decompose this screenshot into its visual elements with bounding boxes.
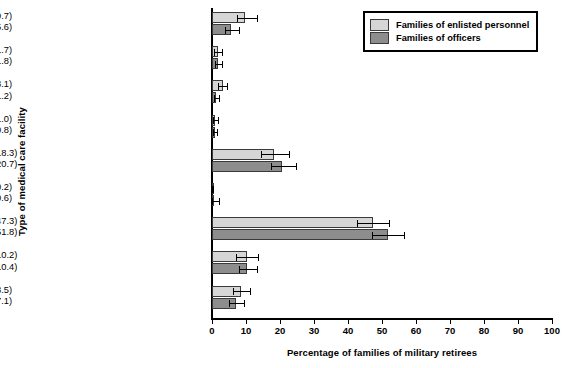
legend-swatch-enlisted-icon — [370, 19, 389, 31]
x-tick — [416, 318, 417, 324]
value-label-enlisted: (9.7) — [0, 11, 27, 22]
error-bar-cap — [404, 232, 405, 239]
error-bar-officers — [372, 235, 404, 236]
error-bar-cap — [296, 163, 297, 170]
error-bar-cap — [219, 198, 220, 205]
x-axis-title: Percentage of families of military retir… — [212, 347, 552, 358]
value-label-pair: (8.5)(7.1) — [0, 285, 27, 307]
value-label-officers: (1.2) — [0, 91, 27, 102]
error-bar-cap — [357, 220, 358, 227]
error-bar-cap — [225, 27, 226, 34]
error-bar-cap — [229, 300, 230, 307]
value-label-officers: (0.6) — [0, 193, 27, 204]
value-label-enlisted: (10.2) — [0, 250, 27, 261]
legend-swatch-officers-icon — [370, 32, 389, 44]
value-label-enlisted: (8.5) — [0, 285, 27, 296]
value-label-enlisted: (3.1) — [0, 79, 27, 90]
value-label-pair: (1.0)(0.8) — [0, 114, 27, 136]
error-bar-cap — [250, 288, 251, 295]
value-label-pair: (10.2)(10.4) — [0, 250, 27, 272]
error-bar-officers — [215, 64, 222, 65]
x-tick-label: 100 — [532, 325, 569, 336]
error-bar-cap — [237, 15, 238, 22]
error-bar-enlisted — [218, 86, 227, 87]
value-label-enlisted: (47.3) — [0, 216, 27, 227]
error-bar-cap — [261, 151, 262, 158]
value-label-pair: (47.3)(51.8) — [0, 216, 27, 238]
error-bar-cap — [215, 61, 216, 68]
value-label-enlisted: (0.2) — [0, 182, 27, 193]
error-bar-cap — [372, 232, 373, 239]
error-bar-enlisted — [233, 291, 250, 292]
bar-chart: Type of medical care facility No medical… — [0, 0, 569, 368]
value-label-officers: (1.8) — [0, 56, 27, 67]
value-label-officers: (5.6) — [0, 22, 27, 33]
value-label-enlisted: (1.0) — [0, 114, 27, 125]
error-bar-enlisted — [237, 18, 256, 19]
x-tick — [246, 318, 247, 324]
x-tick — [382, 318, 383, 324]
x-tick — [450, 318, 451, 324]
error-bar-cap — [217, 129, 218, 136]
error-bar-officers — [229, 303, 244, 304]
error-bar-cap — [233, 288, 234, 295]
error-bar-cap — [239, 266, 240, 273]
value-label-officers: (0.8) — [0, 125, 27, 136]
x-tick — [314, 318, 315, 324]
x-tick — [212, 318, 213, 324]
error-bar-cap — [214, 95, 215, 102]
error-bar-cap — [213, 186, 214, 193]
error-bar-enlisted — [357, 223, 390, 224]
bar-enlisted — [212, 217, 373, 228]
value-label-pair: (1.7)(1.8) — [0, 45, 27, 67]
error-bar-officers — [271, 166, 296, 167]
error-bar-cap — [214, 49, 215, 56]
legend-item-officers: Families of officers — [370, 32, 529, 44]
error-bar-enlisted — [214, 52, 221, 53]
legend-item-enlisted: Families of enlisted personnel — [370, 19, 529, 31]
error-bar-cap — [389, 220, 390, 227]
legend-label-enlisted: Families of enlisted personnel — [396, 20, 529, 30]
error-bar-cap — [258, 254, 259, 261]
error-bar-officers — [225, 30, 239, 31]
error-bar-cap — [222, 49, 223, 56]
error-bar-cap — [213, 117, 214, 124]
value-label-pair: (18.3)(20.7) — [0, 148, 27, 170]
value-label-officers: (20.7) — [0, 159, 27, 170]
value-label-officers: (51.8) — [0, 227, 27, 238]
error-bar-cap — [257, 266, 258, 273]
error-bar-cap — [257, 15, 258, 22]
error-bar-cap — [222, 61, 223, 68]
error-bar-cap — [271, 163, 272, 170]
error-bar-cap — [212, 198, 213, 205]
bar-officers — [212, 229, 388, 240]
value-label-enlisted: (18.3) — [0, 148, 27, 159]
error-bar-officers — [239, 269, 258, 270]
error-bar-cap — [218, 83, 219, 90]
error-bar-cap — [244, 300, 245, 307]
error-bar-enlisted — [261, 154, 289, 155]
x-tick — [280, 318, 281, 324]
error-bar-cap — [219, 95, 220, 102]
x-tick — [518, 318, 519, 324]
error-bar-cap — [213, 129, 214, 136]
error-bar-cap — [218, 117, 219, 124]
value-label-enlisted: (1.7) — [0, 45, 27, 56]
value-label-pair: (0.2)(0.6) — [0, 182, 27, 204]
value-label-pair: (3.1)(1.2) — [0, 79, 27, 101]
x-tick — [484, 318, 485, 324]
value-label-pair: (9.7)(5.6) — [0, 11, 27, 33]
error-bar-officers — [212, 201, 219, 202]
value-label-officers: (7.1) — [0, 296, 27, 307]
legend-label-officers: Families of officers — [396, 33, 481, 43]
x-tick — [348, 318, 349, 324]
error-bar-enlisted — [236, 257, 257, 258]
error-bar-cap — [289, 151, 290, 158]
error-bar-cap — [239, 27, 240, 34]
error-bar-cap — [227, 83, 228, 90]
error-bar-cap — [236, 254, 237, 261]
value-label-officers: (10.4) — [0, 262, 27, 273]
legend: Families of enlisted personnel Families … — [363, 11, 538, 52]
x-tick — [552, 318, 553, 324]
